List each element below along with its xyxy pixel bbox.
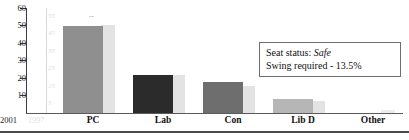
seat-status-value: Safe <box>314 47 331 58</box>
bar-group-pc <box>63 8 123 113</box>
bar-con-2001 <box>203 82 243 114</box>
y-tick-label-primary: 50 <box>4 21 26 29</box>
y-tick-label-primary: 40 <box>4 39 26 47</box>
bar-pc-1997 <box>101 25 115 113</box>
y-tick-label-primary: 20 <box>4 74 26 82</box>
category-label-libd: Lib D <box>273 115 333 126</box>
y-tick-label-primary: 10 <box>4 91 26 99</box>
legend-2001: 2001 <box>0 115 26 126</box>
y-tick-primary: 60 <box>0 4 26 12</box>
seat-status-line: Seat status: Safe <box>266 46 394 59</box>
y-tick-primary: 20 <box>0 74 26 82</box>
y-tick-primary: 40 <box>0 39 26 47</box>
category-label-pc: PC <box>63 115 123 126</box>
y-tick-label-primary: 60 <box>4 4 26 12</box>
bar-other-1997 <box>381 110 395 113</box>
secondary-y-axis-line <box>46 8 47 113</box>
bottom-rule <box>0 131 409 133</box>
category-label-lab: Lab <box>133 115 193 126</box>
primary-y-axis-line <box>26 8 27 113</box>
annotation-box: Seat status: Safe Swing required - 13.5% <box>259 42 401 77</box>
bar-libd-2001 <box>273 99 313 113</box>
bar-chart: 60 50 40 30 20 10 55 45 35 25 15 <box>0 0 409 140</box>
seat-status-label: Seat status: <box>266 47 311 58</box>
swing-required-line: Swing required - 13.5% <box>266 59 394 72</box>
bar-pc-2001 <box>63 26 103 113</box>
y-tick-label-primary: 30 <box>4 56 26 64</box>
y-tick-primary: 10 <box>0 91 26 99</box>
y-tick-primary: 30 <box>0 56 26 64</box>
legend-1997: 1997 <box>28 115 50 126</box>
bar-libd-1997 <box>311 101 325 113</box>
bar-group-con <box>203 8 263 113</box>
category-label-other: Other <box>343 115 403 126</box>
bar-lab-2001 <box>133 75 173 114</box>
x-axis-line <box>26 113 403 114</box>
bar-con-1997 <box>241 86 255 113</box>
bar-lab-1997 <box>171 75 185 114</box>
bar-group-lab <box>133 8 193 113</box>
category-label-con: Con <box>203 115 263 126</box>
y-tick-primary: 50 <box>0 21 26 29</box>
